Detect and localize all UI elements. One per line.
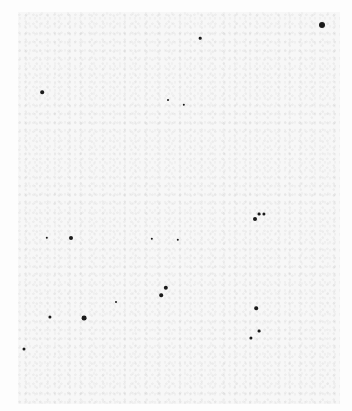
photographic-plate bbox=[18, 12, 340, 404]
star-point bbox=[82, 316, 87, 321]
star-point bbox=[254, 306, 258, 310]
star-point bbox=[115, 301, 117, 303]
star-point bbox=[258, 330, 261, 333]
star-point bbox=[69, 236, 73, 240]
star-point bbox=[253, 217, 257, 221]
star-point bbox=[167, 99, 169, 101]
star-point bbox=[258, 213, 261, 216]
star-point bbox=[199, 37, 202, 40]
star-point bbox=[159, 293, 163, 297]
star-point bbox=[40, 90, 44, 94]
star-field-image bbox=[0, 0, 352, 411]
star-point bbox=[319, 22, 325, 28]
star-point bbox=[23, 348, 26, 351]
